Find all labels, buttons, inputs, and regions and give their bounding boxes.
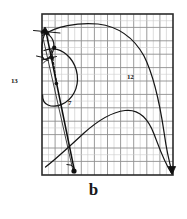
node-dot-mid [55, 82, 59, 86]
figure-container: 13 7 12 b [0, 0, 187, 219]
node-dot-bottom [71, 168, 76, 173]
node-dot-loop-lower [50, 56, 54, 60]
plot-grid [42, 14, 173, 175]
curve-label-7: 7 [68, 100, 71, 107]
node-dot-loop-upper [52, 45, 56, 49]
curve-label-12: 12 [127, 74, 133, 81]
figure-caption: b [0, 180, 187, 200]
curve-label-13: 13 [11, 78, 17, 85]
